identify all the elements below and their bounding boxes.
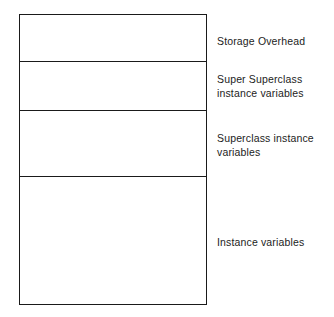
label-storage-overhead: Storage Overhead [217,35,329,49]
label-instance-variables: Instance variables [217,236,329,250]
segment-superclass-instance-variables [20,111,206,177]
segment-super-superclass-instance-variables [20,62,206,111]
label-superclass-instance-variables: Superclass instance variables [217,132,329,159]
memory-layout-column [19,14,207,305]
segment-storage-overhead [20,15,206,62]
segment-instance-variables [20,177,206,304]
memory-layout-diagram: Storage Overhead Super Superclass instan… [0,0,334,317]
label-super-superclass-instance-variables: Super Superclass instance variables [217,73,329,100]
